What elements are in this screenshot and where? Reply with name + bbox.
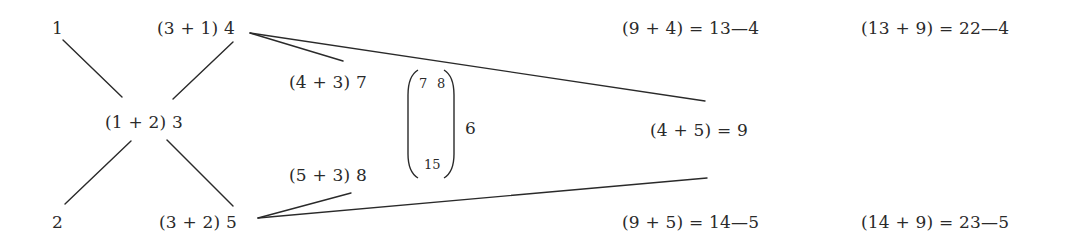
node-4: (3 + 1) 4 <box>157 18 235 38</box>
node-9: (4 + 5) = 9 <box>650 120 748 140</box>
left-parenthesis-icon <box>408 70 418 178</box>
node-2: 2 <box>52 212 63 232</box>
edge-3-to-2 <box>65 141 131 204</box>
equation-13: (9 + 4) = 13—4 <box>622 18 759 38</box>
edge-4-to-3 <box>173 42 233 99</box>
edge-4-to-7 <box>250 33 343 61</box>
bracket-label: 6 <box>465 118 476 138</box>
bracket-bottom-value: 15 <box>424 158 441 172</box>
equation-23: (14 + 9) = 23—5 <box>861 212 1009 232</box>
node-7: (4 + 3) 7 <box>289 72 367 92</box>
number-tree-diagram: 1 (3 + 1) 4 (1 + 2) 3 2 (3 + 2) 5 (4 + 3… <box>0 0 1082 244</box>
equation-22: (13 + 9) = 22—4 <box>861 18 1009 38</box>
equation-14: (9 + 5) = 14—5 <box>622 212 759 232</box>
node-8: (5 + 3) 8 <box>289 165 367 185</box>
edge-3-to-5 <box>167 140 233 206</box>
bracket-top-left-value: 7 <box>419 77 427 91</box>
node-1: 1 <box>52 18 63 38</box>
node-5: (3 + 2) 5 <box>159 212 237 232</box>
edge-1-to-3 <box>63 40 122 97</box>
node-3: (1 + 2) 3 <box>105 112 183 132</box>
bracket-top-right-value: 8 <box>437 77 445 91</box>
right-parenthesis-icon <box>444 70 454 178</box>
